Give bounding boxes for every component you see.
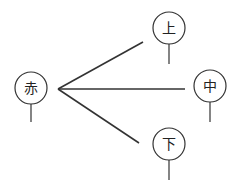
node-middle: 中	[194, 70, 226, 122]
node-label: 上	[162, 20, 176, 36]
node-bottom: 下	[153, 128, 185, 180]
node-label: 中	[203, 78, 217, 94]
node-root: 赤	[15, 72, 47, 122]
edge-root-bottom	[58, 89, 139, 143]
edge-root-top	[58, 42, 143, 89]
tree-diagram: 赤 上 中 下	[0, 0, 240, 190]
node-label: 下	[162, 136, 176, 152]
node-label: 赤	[24, 80, 38, 96]
node-top: 上	[153, 12, 185, 64]
